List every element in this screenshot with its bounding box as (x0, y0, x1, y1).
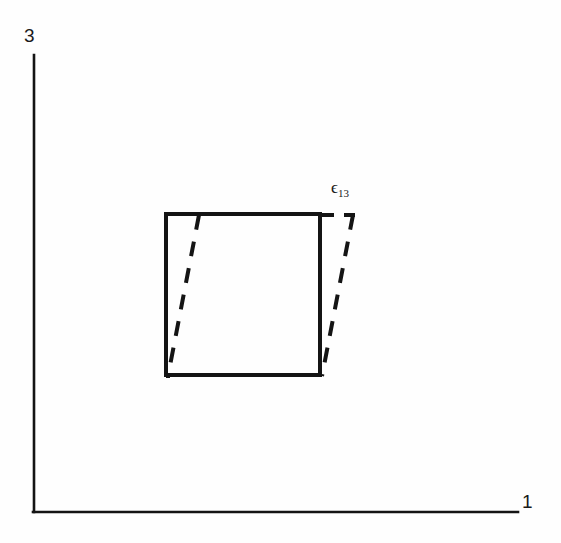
undeformed-square (166, 214, 320, 375)
axis-3-label: 3 (24, 26, 35, 45)
epsilon-subscript: 13 (338, 187, 349, 199)
deformed-left-edge (168, 215, 199, 376)
epsilon-symbol: ϵ (331, 178, 338, 197)
shear-strain-figure: 3 1 ϵ13 (0, 0, 561, 543)
axis-1-label: 1 (522, 492, 533, 511)
strain-label-epsilon-13: ϵ13 (331, 179, 349, 199)
deformed-right-edge (322, 215, 353, 376)
figure-canvas (0, 0, 561, 543)
